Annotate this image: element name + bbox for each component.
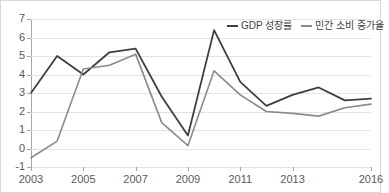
x-tick-mark [31,167,32,171]
x-tick-label: 2016 [351,173,389,185]
x-tick-label: 2007 [116,173,156,185]
legend-item[interactable]: GDP 성장률 [227,20,292,31]
y-tick-label: 4 [1,69,25,80]
legend-label: GDP 성장률 [241,20,292,31]
x-tick-label: 2003 [11,173,51,185]
series-line [31,54,371,158]
x-tick-mark [293,167,294,171]
legend-label: 민간 소비 증가율 [315,20,384,31]
y-tick-label: 5 [1,50,25,61]
x-tick-label: 2005 [63,173,103,185]
y-tick-label: 2 [1,106,25,117]
x-tick-mark [136,167,137,171]
y-tick-label: -1 [1,161,25,172]
legend-item[interactable]: 민간 소비 증가율 [301,20,384,31]
x-tick-label: 2009 [168,173,208,185]
gridline [31,167,371,168]
legend-swatch-icon [227,25,238,27]
legend-swatch-icon [301,25,312,27]
series-layer [31,19,371,167]
plot-area [31,19,371,167]
x-tick-label: 2011 [220,173,260,185]
x-tick-label: 2013 [273,173,313,185]
y-tick-label: 0 [1,143,25,154]
y-tick-label: 1 [1,124,25,135]
x-tick-mark [240,167,241,171]
chart-legend: GDP 성장률민간 소비 증가율 [227,20,384,31]
y-tick-label: 6 [1,32,25,43]
y-tick-label: 7 [1,13,25,24]
x-tick-mark [371,167,372,171]
y-tick-label: 3 [1,87,25,98]
x-tick-mark [83,167,84,171]
x-tick-mark [188,167,189,171]
series-line [31,30,371,135]
